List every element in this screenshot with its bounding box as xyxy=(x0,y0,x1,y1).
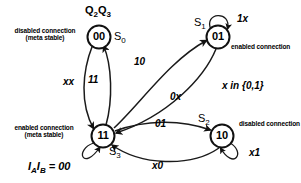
edge-s3-to-s0 xyxy=(104,46,111,125)
annotation-s0: disabled connection (meta stable) xyxy=(6,28,84,42)
state-code-s1: 01 xyxy=(209,31,227,43)
edge-label-s3-to-s1: 10 xyxy=(134,57,145,68)
annotation-s2: disabled connection xyxy=(239,121,301,128)
state-code-s3: 11 xyxy=(94,130,112,142)
annotation-s1: enabled connection xyxy=(231,44,301,51)
edge-label-s3-to-s2: 01 xyxy=(155,119,166,130)
edge-label-s1-to-s3: 0x xyxy=(170,92,181,103)
input-assignment-label: IAIB = 00 xyxy=(28,161,70,176)
state-label-s2: S2 xyxy=(198,113,210,128)
edge-s2-to-s3 xyxy=(112,145,219,162)
edge-label-s0-to-s3: xx xyxy=(63,77,74,88)
edge-label-self-loop-s1: 1x xyxy=(237,14,248,25)
input-value: = 00 xyxy=(46,160,71,172)
state-label-s3-sub: 3 xyxy=(116,151,120,160)
state-label-s1: S1 xyxy=(194,17,206,32)
state-label-s1-sub: 1 xyxy=(201,22,205,31)
state-code-s2: 10 xyxy=(213,130,231,142)
annotation-s2-line1: disabled connection xyxy=(239,121,301,128)
edge-label-s2-to-s3: x0 xyxy=(152,161,163,172)
edge-label-self-loop-s2: x1 xyxy=(249,148,260,159)
state-label-s0: S0 xyxy=(114,31,126,46)
header-q3-sub: 3 xyxy=(107,10,111,19)
header-q-label: Q2Q3 xyxy=(85,5,111,20)
header-q3-main: Q xyxy=(98,4,107,16)
annotation-s0-line2: (meta stable) xyxy=(6,35,84,42)
legend-x-domain: x in {0,1} xyxy=(222,81,264,92)
state-transition-diagram: Q2Q3 00 01 10 11 S0 S1 S2 S3 disabled co… xyxy=(0,0,301,183)
header-q2-main: Q xyxy=(85,4,94,16)
annotation-s3-line2: (meta stable) xyxy=(4,132,84,139)
state-code-s0: 00 xyxy=(90,31,108,43)
annotation-s3: enabled connection (meta stable) xyxy=(4,125,84,139)
annotation-s1-line1: enabled connection xyxy=(231,44,301,51)
edge-label-s3-to-s0: 11 xyxy=(88,75,98,86)
edge-s0-to-s3 xyxy=(84,46,94,129)
state-label-s2-sub: 2 xyxy=(205,118,209,127)
state-label-s3: S3 xyxy=(109,146,121,161)
state-label-s0-sub: 0 xyxy=(121,36,125,45)
